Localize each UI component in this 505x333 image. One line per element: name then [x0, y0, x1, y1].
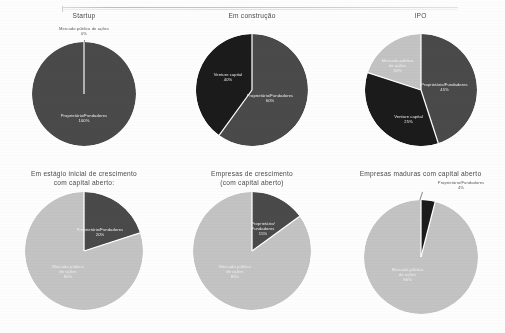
chart-title-estagio-inicial: Em estágio inicial de crescimento com ca…: [0, 170, 168, 187]
pie-empresas-maduras: Mercado público de ações 96%: [364, 200, 478, 314]
chart-cell-empresas-crescimento: Empresas de crescimento (com capital abe…: [168, 170, 336, 333]
pie-em-construcao: Proprietário/Fundadores 60% Venture capi…: [196, 34, 308, 146]
chart-cell-empresas-maduras: Empresas maduras com capital aberto Prop…: [336, 170, 505, 333]
pie-startup: Proprietário/Fundadores 100%: [32, 42, 136, 146]
pie-svg-em-construcao: [196, 34, 308, 146]
chart-cell-ipo: IPO Proprietário/Fundadores: [336, 12, 505, 170]
chart-grid: Startup Mercado público de ações 0% Prop…: [0, 12, 505, 333]
pie-svg-empresas-crescimento: [193, 192, 311, 310]
pie-svg-empresas-maduras: [364, 200, 478, 314]
chart-title-em-construcao: Em construção: [168, 12, 336, 21]
chart-cell-estagio-inicial: Em estágio inicial de crescimento com ca…: [0, 170, 168, 333]
pie-label-startup-public: Mercado público de ações 0%: [39, 26, 129, 36]
pie-svg-estagio-inicial: [25, 192, 143, 310]
pie-ipo: Proprietário/Fundadores 45% Venture capi…: [365, 34, 477, 146]
chart-cell-startup: Startup Mercado público de ações 0% Prop…: [0, 12, 168, 170]
page-top-rule: [62, 7, 458, 8]
pie-svg-ipo: [365, 34, 477, 146]
chart-title-ipo: IPO: [336, 12, 505, 21]
chart-cell-em-construcao: Em construção Proprietário/Fundadores 60…: [168, 12, 336, 170]
pie-estagio-inicial: Proprietário/Fundadores 20% Mercado públ…: [25, 192, 143, 310]
chart-title-empresas-crescimento: Empresas de crescimento (com capital abe…: [168, 170, 336, 187]
figure-page: Startup Mercado público de ações 0% Prop…: [0, 0, 505, 333]
chart-title-startup: Startup: [0, 12, 168, 21]
page-top-rule-shadow: [62, 9, 458, 10]
pie-empresas-crescimento: Proprietário/ Fundadores 15% Mercado púb…: [193, 192, 311, 310]
chart-title-empresas-maduras: Empresas maduras com capital aberto: [336, 170, 505, 179]
pie-label-maduras-owner: Proprietário/Fundadores 4%: [422, 180, 500, 190]
pie-svg-startup: [32, 42, 136, 146]
